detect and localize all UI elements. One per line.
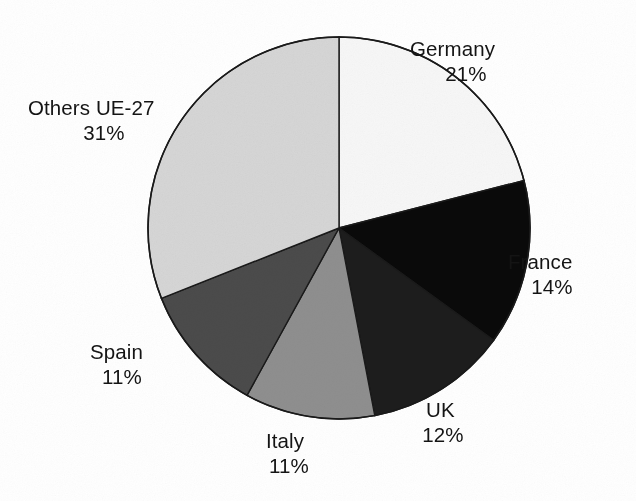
pie-label-uk-value: 12% xyxy=(421,422,465,447)
pie-label-france: France 14% xyxy=(508,249,632,299)
pie-label-italy-value: 11% xyxy=(263,453,315,478)
pie-label-others-name: Others UE-27 xyxy=(28,95,208,120)
pie-label-italy-name: Italy xyxy=(266,428,376,453)
pie-label-germany-value: 21% xyxy=(410,61,522,86)
pie-label-france-value: 14% xyxy=(508,274,596,299)
pie-label-spain-name: Spain xyxy=(90,339,210,364)
pie-label-france-name: France xyxy=(508,249,632,274)
pie-label-spain-value: 11% xyxy=(88,364,156,389)
pie-label-uk: UK 12% xyxy=(426,397,536,447)
pie-label-germany: Germany 21% xyxy=(410,36,570,86)
pie-label-others-ue-27: Others UE-27 31% xyxy=(28,95,208,145)
pie-chart-figure: Germany 21% France 14% UK 12% Italy 11% … xyxy=(0,0,636,501)
pie-label-spain: Spain 11% xyxy=(90,339,210,389)
pie-label-italy: Italy 11% xyxy=(266,428,376,478)
pie-label-others-value: 31% xyxy=(28,120,180,145)
pie-label-uk-name: UK xyxy=(426,397,536,422)
pie-label-germany-name: Germany xyxy=(410,36,570,61)
